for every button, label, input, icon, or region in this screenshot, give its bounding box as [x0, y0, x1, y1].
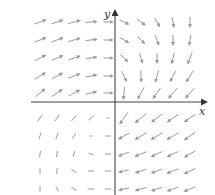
field-arrow — [168, 114, 179, 121]
field-arrow — [73, 133, 76, 138]
field-arrow — [34, 38, 45, 42]
field-arrow — [155, 18, 160, 27]
field-arrow — [86, 57, 97, 59]
field-arrow — [167, 169, 178, 173]
field-arrow — [140, 53, 143, 63]
field-arrow — [168, 152, 179, 157]
field-arrow — [155, 70, 158, 82]
field-arrow — [170, 71, 176, 82]
field-arrow — [52, 90, 62, 97]
field-arrow — [35, 55, 46, 61]
field-arrow — [186, 88, 195, 98]
field-arrow — [38, 115, 43, 122]
field-arrow — [152, 133, 163, 140]
field-arrow — [120, 20, 129, 24]
field-arrow — [55, 115, 60, 122]
field-arrow — [168, 187, 178, 191]
field-arrow — [137, 19, 145, 25]
field-arrow — [184, 187, 195, 191]
field-arrow — [185, 114, 196, 121]
field-arrow — [188, 52, 192, 63]
field-arrow — [86, 92, 97, 95]
field-arrow — [172, 53, 175, 64]
field-arrow — [71, 188, 76, 191]
field-arrow — [167, 133, 178, 140]
field-arrow — [34, 20, 45, 24]
field-arrow — [136, 114, 147, 123]
field-arrow — [136, 169, 146, 172]
field-arrow — [40, 151, 41, 157]
field-arrow — [155, 35, 158, 44]
field-arrow — [86, 75, 97, 77]
field-arrow — [35, 89, 44, 97]
field-arrow — [187, 71, 194, 82]
field-arrow — [119, 188, 129, 190]
field-arrow — [57, 151, 58, 157]
field-arrow — [121, 55, 128, 62]
field-arrow — [69, 90, 80, 96]
field-arrow — [88, 116, 93, 120]
field-arrow — [152, 169, 162, 173]
y-axis-label: y — [103, 8, 111, 21]
field-arrow — [152, 187, 162, 190]
field-arrow — [185, 169, 196, 174]
x-axis-label: x — [199, 105, 206, 118]
field-arrow — [51, 38, 62, 42]
field-arrow — [122, 71, 127, 81]
field-arrow — [152, 114, 162, 122]
field-arrow — [68, 20, 80, 23]
field-arrow — [136, 133, 147, 140]
field-arrow — [73, 151, 75, 157]
field-arrow — [124, 87, 125, 99]
field-arrow — [56, 133, 58, 140]
field-arrow — [89, 153, 94, 155]
field-arrow — [68, 56, 79, 60]
field-arrow — [135, 152, 146, 156]
field-arrow — [52, 56, 63, 61]
field-arrow — [71, 115, 76, 121]
field-arrow — [169, 88, 177, 98]
field-arrow — [71, 170, 76, 173]
field-arrow — [138, 87, 144, 98]
field-arrow — [56, 187, 59, 191]
field-arrow — [138, 37, 145, 44]
field-arrow — [57, 168, 58, 174]
vector-field-plot: x y — [0, 0, 215, 195]
field-arrow — [153, 88, 160, 99]
field-arrow — [120, 112, 128, 123]
field-arrow — [68, 74, 79, 78]
field-arrow — [35, 73, 45, 79]
field-arrow — [120, 38, 129, 43]
field-arrow — [119, 133, 129, 139]
field-arrow — [119, 170, 129, 173]
field-arrow — [185, 132, 196, 139]
field-arrow — [119, 152, 129, 156]
field-arrow — [52, 73, 63, 79]
field-arrow — [39, 133, 41, 140]
field-arrow — [136, 188, 147, 191]
field-arrow — [152, 152, 163, 157]
field-arrow — [51, 20, 62, 24]
field-arrow — [189, 35, 191, 45]
field-arrow — [86, 22, 97, 23]
field-arrow — [172, 17, 174, 27]
field-arrow — [86, 39, 97, 40]
field-arrow — [68, 38, 80, 41]
field-arrow — [185, 151, 195, 157]
